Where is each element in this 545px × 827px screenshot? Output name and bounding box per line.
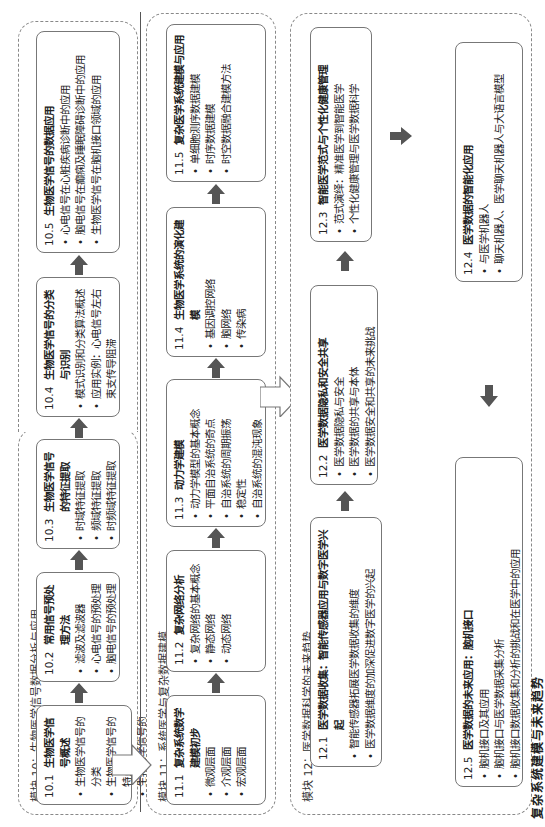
box-title: 生物医学信号的数据应用: [42, 38, 58, 216]
bullet-item: 时序数据建模: [203, 31, 219, 175]
bullet-item: 稳定性: [234, 386, 250, 520]
bullet-item: 脑网络: [219, 214, 235, 350]
bullet-item: 个性化健康管理与医学数据科学: [347, 34, 363, 235]
box-10-3: 10.3生物医学信号的特征提取 时域特征提取 频域特征提取 时频域特征提取: [36, 439, 120, 549]
box-title: 智能医学范式与个性化健康管理: [316, 34, 332, 205]
box-number: 12.3: [316, 212, 332, 235]
arrow-left-icon: [480, 385, 498, 407]
box-number: 11.3: [172, 497, 188, 520]
bullet-item: 介观层面: [219, 702, 235, 798]
bullet-item: 心电信号的预处理: [89, 579, 105, 675]
hollow-arrow-down-icon: [112, 741, 152, 785]
arrow-right-icon: [70, 255, 88, 275]
arrow-right-icon: [70, 683, 88, 703]
bullet-item: 脑机接口及其应用: [477, 464, 493, 780]
box-12-3: 12.3智能医学范式与个性化健康管理 范式演绎：精准医学到智能医学 个性化健康管…: [310, 27, 372, 242]
bullet-item: 时空数据融合建模方法: [219, 31, 235, 175]
box-12-1: 12.1医学数据收集：智能传感器应用与数字医学兴起 智能传感器拓展医学数据收集的…: [310, 517, 382, 767]
box-number: 11.5: [172, 152, 188, 175]
arrow-right-icon: [207, 673, 225, 693]
bullet-item: 平面自治系统的奇点: [203, 386, 219, 520]
bullet-item: 范式演绎：精准医学到智能医学: [332, 34, 348, 235]
bullet-item: 应用实例：心电信号左右束支传导阻滞: [89, 284, 120, 410]
box-number: 11.4: [172, 327, 203, 350]
bullet-item: 脑机接口与医学数据采集分析: [492, 464, 508, 780]
bullet-item: 动力学模型的基本概念: [188, 386, 204, 520]
box-title: 医学数据的智能化应用: [461, 49, 477, 245]
bullet-item: 医学数据安全和共享的未来挑战: [363, 292, 379, 478]
bullet-item: 传染病: [234, 214, 250, 350]
divider-line: [140, 12, 141, 812]
arrow-right-icon: [207, 358, 225, 378]
arrow-down-icon: [390, 127, 412, 145]
box-10-5: 10.5生物医学信号的数据应用 心电信号在心脏疾病诊断中的应用 脑电信号在癫痫及…: [36, 31, 120, 253]
box-number: 10.3: [42, 519, 73, 542]
arrow-right-icon: [336, 491, 354, 511]
box-number: 11.2: [172, 642, 188, 665]
box-title: 动力学建模: [172, 386, 188, 490]
bullet-item: 心电信号在心脏疾病诊断中的应用: [58, 38, 74, 246]
arrow-right-icon: [207, 184, 225, 204]
bullet-item: 生物医学信号的分类: [73, 712, 104, 798]
figure-caption: 复杂系统建模与未来趋势: [528, 676, 545, 819]
box-title: 医学数据收集：智能传感器应用与数字医学兴起: [316, 524, 347, 730]
box-12-2: 12.2医学数据隐私和安全共享 医学数据隐私与安全 医学数据的共享与本体 医学数…: [310, 285, 378, 485]
bullet-item: 滤波及滤波器: [73, 579, 89, 675]
bullet-item: 时频域特征提取: [104, 446, 120, 542]
bullet-item: 自治系统的周期振荡: [219, 386, 235, 520]
bullet-item: 脑机接口数据收集和分析的挑战和在医学中的应用: [508, 464, 524, 780]
bullet-item: 微观层面: [203, 702, 219, 798]
box-11-2: 11.2复杂网络分析 复杂网络的基本概念 静态网络 动态网络: [166, 550, 266, 672]
bullet-item: 医学数据的共享与本体: [347, 292, 363, 478]
bullet-item: 模式识别和分类算法概述: [73, 284, 89, 410]
bullet-item: 智能传感器拓展医学数据收集的维度: [347, 524, 363, 760]
box-11-5: 11.5复杂医学系统建模与应用 单细胞测序数据建模 时序数据建模 时空数据融合建…: [166, 24, 266, 182]
box-title: 医学数据隐私和安全共享: [316, 292, 332, 448]
box-11-4: 11.4生物医学系统的演化建模 基因调控网络 脑网络 传染病: [166, 207, 266, 357]
box-11-3: 11.3动力学建模 动力学模型的基本概念 平面自治系统的奇点 自治系统的周期振荡…: [166, 379, 266, 527]
arrow-right-icon: [336, 251, 354, 271]
bullet-item: 脑电信号在癫痫及睡眠障碍诊断中的应用: [73, 38, 89, 246]
bullet-item: 复杂网络的基本概念: [188, 557, 204, 665]
box-title: 生物医学信号概述: [42, 712, 73, 768]
box-title: 生物医学系统的演化建模: [172, 214, 203, 320]
arrow-right-icon: [70, 418, 88, 438]
bullet-item: 静态网络: [203, 557, 219, 665]
box-number: 11.1: [172, 775, 203, 798]
bullet-item: 脑电信号的预处理: [104, 579, 120, 675]
box-10-4: 10.4生物医学信号的分类与识别 模式识别和分类算法概述 应用实例：心电信号左右…: [36, 277, 120, 417]
box-title: 生物医学信号的特征提取: [42, 446, 73, 512]
box-number: 10.1: [42, 775, 73, 798]
box-title: 复杂医学系统建模与应用: [172, 31, 188, 145]
box-title: 复杂系统数学建模初步: [172, 702, 203, 768]
bullet-item: 单细胞测序数据建模: [188, 31, 204, 175]
bullet-item: 医学数据隐私与安全: [332, 292, 348, 478]
bullet-item: 时域特征提取: [73, 446, 89, 542]
box-title: 复杂网络分析: [172, 557, 188, 635]
box-11-1: 11.1复杂系统数学建模初步 微观层面 介观层面 宏观层面: [166, 695, 266, 805]
box-title: 常用信号预处理方法: [42, 579, 73, 645]
box-number: 10.5: [42, 223, 58, 246]
box-number: 10.2: [42, 652, 73, 675]
box-number: 12.2: [316, 455, 332, 478]
bullet-item: 宏观层面: [234, 702, 250, 798]
bullet-item: 基因调控网络: [203, 214, 219, 350]
box-number: 10.4: [42, 387, 73, 410]
arrow-right-icon: [207, 528, 225, 548]
box-title: 医学数据的未来应用：脑机接口: [461, 464, 477, 750]
bullet-item: 医学数据维度的加深促进数字医学的兴起: [363, 524, 379, 760]
box-12-4: 12.4医学数据的智能化应用 与医学机器人 聊天机器人、医学聊天机器人与大语言模…: [455, 42, 523, 282]
arrow-right-icon: [70, 550, 88, 570]
bullet-item: 生物医学信号在脑机接口领域的应用: [89, 38, 105, 246]
bullet-item: 与医学机器人: [477, 49, 493, 275]
box-12-5: 12.5医学数据的未来应用：脑机接口 脑机接口及其应用 脑机接口与医学数据采集分…: [455, 457, 523, 787]
box-number: 12.4: [461, 252, 477, 275]
bullet-item: 频域特征提取: [89, 446, 105, 542]
box-10-2: 10.2常用信号预处理方法 滤波及滤波器 心电信号的预处理 脑电信号的预处理: [36, 572, 120, 682]
bullet-item: 动态网络: [219, 557, 235, 665]
bullet-item: 聊天机器人、医学聊天机器人与大语言模型: [492, 49, 508, 275]
box-number: 12.5: [461, 757, 477, 780]
box-number: 12.1: [316, 737, 347, 760]
box-title: 生物医学信号的分类与识别: [42, 284, 73, 380]
